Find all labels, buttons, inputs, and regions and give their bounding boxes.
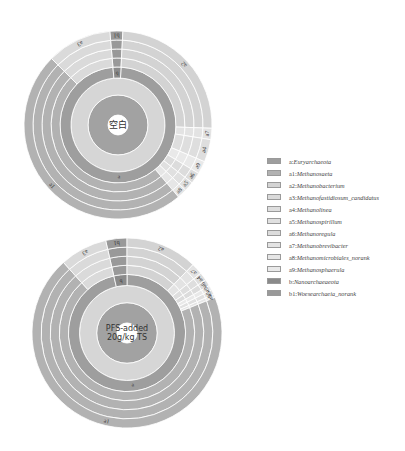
- sunburst-charts: abb1a2a7a4a9a6a5a8a1a3空白abb1a2a7a4a6a9a5…: [0, 0, 260, 451]
- legend-item: a:Euryarchaeota: [267, 155, 405, 167]
- legend-swatch: [267, 194, 281, 200]
- genus-segment-b1: [111, 40, 123, 49]
- legend-label: a1:Methanosaeta: [289, 170, 332, 177]
- legend-swatch: [267, 278, 281, 284]
- legend-item: a6:Methanoregula: [267, 227, 405, 239]
- center-label: 空白: [109, 119, 127, 130]
- genus-segment-b1: [112, 58, 121, 67]
- legend-label: a7:Methanobrevibacter: [289, 242, 348, 249]
- legend-swatch: [267, 242, 281, 248]
- genus-segment-b1: [111, 49, 122, 58]
- legend-swatch: [267, 266, 281, 272]
- legend-item: a5:Methanospirillum: [267, 215, 405, 227]
- legend-label: a8:Methanomicrobiales_norank: [289, 254, 370, 261]
- legend-label: a5:Methanospirillum: [289, 218, 342, 225]
- legend-item: a4:Methanolinea: [267, 203, 405, 215]
- legend-label: a:Euryarchaeota: [289, 158, 331, 165]
- legend-item: b1:Woesearchaeia_norank: [267, 287, 405, 299]
- legend: a:Euryarchaeota a1:Methanosaeta a2:Metha…: [267, 155, 405, 299]
- legend-label: a2:Methanobacterium: [289, 182, 345, 189]
- legend-item: a1:Methanosaeta: [267, 167, 405, 179]
- legend-label: a4:Methanolinea: [289, 206, 332, 213]
- center-label: PFS-added: [106, 324, 148, 333]
- center-label: 20g/kg TS: [107, 333, 147, 342]
- legend-item: a7:Methanobrevibacter: [267, 239, 405, 251]
- legend-label: b1:Woesearchaeia_norank: [289, 290, 356, 297]
- legend-swatch: [267, 170, 281, 176]
- segment-label: b1: [113, 240, 120, 247]
- legend-swatch: [267, 158, 281, 164]
- legend-item: a9:Methanosphaerula: [267, 263, 405, 275]
- legend-label: a3:Methanofastidiosum_candidatus: [289, 194, 379, 201]
- genus-segment-a7: [193, 128, 203, 139]
- legend-item: a8:Methanomicrobiales_norank: [267, 251, 405, 263]
- legend-item: b:Nanoarchaeaeota: [267, 275, 405, 287]
- legend-swatch: [267, 182, 281, 188]
- legend-label: a6:Methanoregula: [289, 230, 335, 237]
- legend-label: a9:Methanosphaerula: [289, 266, 344, 273]
- legend-swatch: [267, 290, 281, 296]
- legend-swatch: [267, 230, 281, 236]
- legend-swatch: [267, 218, 281, 224]
- segment-label: b: [115, 71, 118, 77]
- segment-label: a7: [204, 130, 211, 136]
- legend-swatch: [267, 206, 281, 212]
- legend-swatch: [267, 254, 281, 260]
- segment-label: b1: [113, 33, 119, 39]
- legend-item: a3:Methanofastidiosum_candidatus: [267, 191, 405, 203]
- legend-label: b:Nanoarchaeaeota: [289, 278, 339, 285]
- legend-item: a2:Methanobacterium: [267, 179, 405, 191]
